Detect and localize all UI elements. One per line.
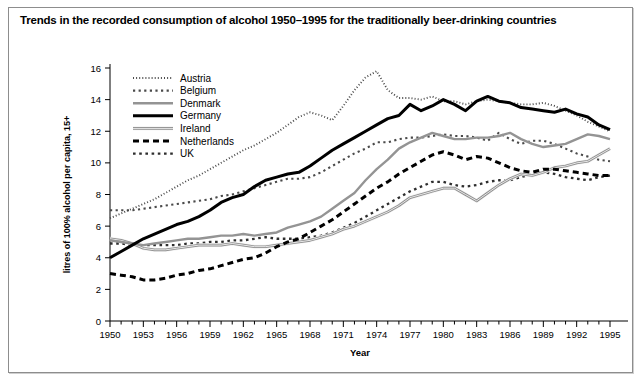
x-tick-label: 1956	[166, 329, 187, 340]
series-line-ireland[interactable]: Ireland	[110, 149, 610, 250]
x-tick-label: 1950	[99, 329, 120, 340]
series-line-ireland-halo	[110, 149, 610, 250]
y-tick-label: 14	[90, 94, 101, 105]
y-tick-label: 0	[96, 316, 101, 327]
x-tick-label: 1983	[466, 329, 487, 340]
y-tick-label: 8	[96, 189, 101, 200]
series-line-netherlands[interactable]: Netherlands	[110, 152, 610, 280]
y-axis-title: litres of 100% alcohol per capita, 15+	[62, 116, 72, 273]
legend-item-austria[interactable]: Austria	[133, 73, 212, 84]
y-tick-label: 16	[90, 63, 101, 74]
x-tick-label: 1959	[199, 329, 220, 340]
y-tick-label: 10	[90, 157, 101, 168]
legend-label-uk: UK	[180, 148, 194, 159]
y-tick-label: 12	[90, 126, 101, 137]
legend-item-uk[interactable]: UK	[133, 148, 194, 159]
y-tick-label: 6	[96, 221, 101, 232]
chart-canvas: BelgiumAustriaUKIrelandDenmarkNetherland…	[0, 0, 644, 384]
x-tick-label: 1953	[133, 329, 154, 340]
x-tick-label: 1968	[299, 329, 320, 340]
x-tick-label: 1965	[266, 329, 287, 340]
line-chart-svg: BelgiumAustriaUKIrelandDenmarkNetherland…	[0, 0, 644, 384]
legend-label-germany: Germany	[180, 110, 221, 121]
x-tick-label: 1992	[566, 329, 587, 340]
x-tick-label: 1986	[499, 329, 520, 340]
x-tick-label: 1974	[366, 329, 387, 340]
legend-label-ireland: Ireland	[180, 123, 211, 134]
legend-label-netherlands: Netherlands	[180, 136, 234, 147]
legend-item-germany[interactable]: Germany	[133, 110, 221, 121]
legend-item-denmark[interactable]: Denmark	[133, 98, 222, 109]
axis-labels-group: 0246810121416195019531956195919621965196…	[62, 63, 621, 359]
legend-item-belgium[interactable]: Belgium	[133, 85, 216, 96]
y-tick-label: 4	[96, 252, 101, 263]
x-tick-label: 1977	[399, 329, 420, 340]
legend-label-belgium: Belgium	[180, 85, 216, 96]
legend-label-denmark: Denmark	[180, 98, 222, 109]
legend-item-ireland[interactable]: Ireland	[133, 123, 211, 134]
x-tick-label: 1971	[333, 329, 354, 340]
x-axis-title: Year	[350, 347, 370, 358]
x-tick-label: 1989	[533, 329, 554, 340]
legend-label-austria: Austria	[180, 73, 212, 84]
x-tick-label: 1980	[433, 329, 454, 340]
x-tick-label: 1995	[599, 329, 620, 340]
series-line-uk[interactable]: UK	[110, 172, 610, 245]
legend-item-netherlands[interactable]: Netherlands	[133, 136, 234, 147]
y-tick-label: 2	[96, 284, 101, 295]
x-tick-label: 1962	[233, 329, 254, 340]
series-line-ireland-inner	[110, 149, 610, 250]
chart-legend[interactable]: AustriaBelgiumDenmarkGermanyIrelandNethe…	[133, 73, 234, 160]
